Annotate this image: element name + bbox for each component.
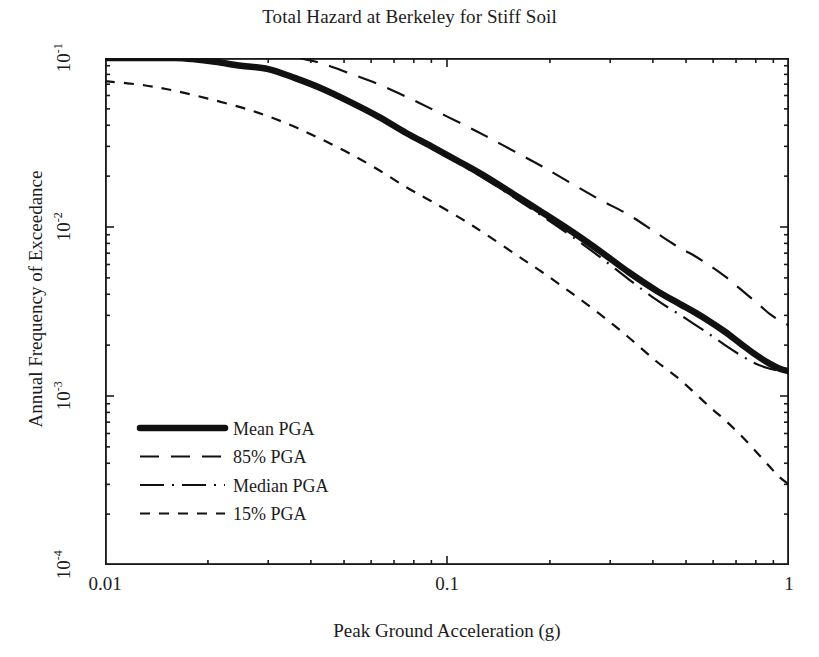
y-tick-label: 10-2 xyxy=(51,197,74,257)
hazard-curve-figure: Total Hazard at Berkeley for Stiff Soil … xyxy=(0,0,819,657)
plot-area: Mean PGA85% PGAMedian PGA15% PGA xyxy=(105,58,789,565)
x-axis-label: Peak Ground Acceleration (g) xyxy=(105,620,789,642)
axis-frame xyxy=(106,59,789,565)
curve-mean-pga xyxy=(105,58,789,371)
legend-label-mean-pga: Mean PGA xyxy=(233,419,315,439)
curve-median-pga xyxy=(208,62,789,373)
axis-ticks xyxy=(105,58,789,565)
chart-legend: Mean PGA85% PGAMedian PGA15% PGA xyxy=(140,419,329,525)
plot-canvas: Mean PGA85% PGAMedian PGA15% PGA xyxy=(105,58,789,565)
x-tick-label: 1 xyxy=(739,573,819,595)
curve-15-pga xyxy=(105,81,789,484)
plot-border xyxy=(106,59,789,565)
y-tick-label: 10-1 xyxy=(51,28,74,88)
legend-label-15-pga: 15% PGA xyxy=(233,504,307,524)
chart-title: Total Hazard at Berkeley for Stiff Soil xyxy=(0,6,819,28)
x-tick-label: 0.1 xyxy=(397,573,497,595)
y-tick-label: 10-4 xyxy=(51,535,74,595)
y-axis-label: Annual Frequency of Exceedance xyxy=(25,89,47,509)
data-curves xyxy=(105,58,789,484)
legend-label-85-pga: 85% PGA xyxy=(233,447,307,467)
curve-85-pga xyxy=(299,58,789,325)
y-tick-label: 10-3 xyxy=(51,366,74,426)
legend-label-median-pga: Median PGA xyxy=(233,476,329,496)
